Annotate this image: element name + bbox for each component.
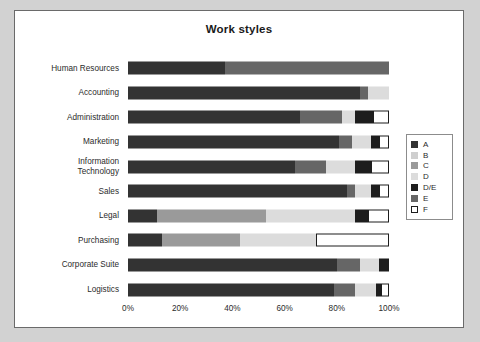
bar-segment xyxy=(128,209,157,222)
stacked-bar xyxy=(128,234,389,247)
x-axis-tick-label: 100% xyxy=(379,304,400,313)
bar-segment xyxy=(128,111,300,124)
bar-segment xyxy=(368,209,389,222)
legend-swatch-icon xyxy=(411,141,418,148)
legend-item[interactable]: F xyxy=(411,204,449,215)
legend-item[interactable]: E xyxy=(411,193,449,204)
bar-segment xyxy=(355,111,373,124)
bar-segment xyxy=(128,234,162,247)
bar-segment xyxy=(162,234,240,247)
legend-label: A xyxy=(423,140,428,149)
bar-segment xyxy=(371,136,379,149)
legend-label: B xyxy=(423,151,428,160)
stacked-bar xyxy=(128,209,389,222)
bar-segment xyxy=(379,136,389,149)
category-label: Accounting xyxy=(15,81,119,106)
bar-segment xyxy=(379,185,389,198)
bar-segment xyxy=(128,259,337,272)
bar-segment xyxy=(316,234,389,247)
stacked-bar xyxy=(128,283,389,296)
category-label: Human Resources xyxy=(15,56,119,81)
category-label: Corporate Suite xyxy=(15,253,119,278)
chart-row: Human Resources xyxy=(15,56,463,81)
legend-label: F xyxy=(423,205,428,214)
chart-row: Corporate Suite xyxy=(15,253,463,278)
category-label: Logistics xyxy=(15,277,119,302)
bar-segment xyxy=(157,209,267,222)
bar-segment xyxy=(352,136,370,149)
bar-segment xyxy=(225,62,389,75)
legend-swatch-icon xyxy=(411,162,418,169)
legend-label: E xyxy=(423,194,428,203)
bar-segment xyxy=(128,136,339,149)
bar-segment xyxy=(128,185,347,198)
stacked-bar xyxy=(128,185,389,198)
category-label: Administration xyxy=(15,105,119,130)
bar-segment xyxy=(295,160,326,173)
bar-segment xyxy=(368,86,389,99)
x-axis-tick-label: 0% xyxy=(122,304,134,313)
bar-segment xyxy=(128,160,295,173)
category-label: Purchasing xyxy=(15,228,119,253)
x-axis: 0%20%40%60%80%100% xyxy=(128,304,389,318)
bar-segment xyxy=(342,111,355,124)
x-axis-tick-label: 60% xyxy=(276,304,292,313)
legend-item[interactable]: B xyxy=(411,150,449,161)
stacked-bar xyxy=(128,259,389,272)
chart-row: Purchasing xyxy=(15,228,463,253)
legend-swatch-icon xyxy=(411,184,418,191)
x-axis-tick-label: 40% xyxy=(224,304,240,313)
chart-row: Information Technology xyxy=(15,154,463,179)
x-axis-tick-label: 20% xyxy=(172,304,188,313)
category-label: Marketing xyxy=(15,130,119,155)
bar-segment xyxy=(326,160,355,173)
bar-segment xyxy=(379,259,389,272)
bar-segment xyxy=(128,283,334,296)
legend-swatch-icon xyxy=(411,152,418,159)
category-label: Information Technology xyxy=(15,154,119,179)
legend-swatch-icon xyxy=(411,173,418,180)
bar-segment xyxy=(334,283,355,296)
stacked-bar xyxy=(128,136,389,149)
legend-item[interactable]: C xyxy=(411,161,449,172)
chart-row: Marketing xyxy=(15,130,463,155)
stacked-bar xyxy=(128,62,389,75)
bar-segment xyxy=(373,111,389,124)
bar-segment xyxy=(240,234,316,247)
stacked-bar xyxy=(128,86,389,99)
legend-item[interactable]: D xyxy=(411,171,449,182)
plot-area: Human ResourcesAccountingAdministrationM… xyxy=(15,11,463,327)
chart-row: Sales xyxy=(15,179,463,204)
legend-item[interactable]: A xyxy=(411,139,449,150)
stacked-bar xyxy=(128,111,389,124)
chart-row: Legal xyxy=(15,204,463,229)
bar-segment xyxy=(339,136,352,149)
legend-swatch-icon xyxy=(411,206,418,213)
bar-segment xyxy=(360,259,378,272)
legend-label: D/E xyxy=(423,183,436,192)
category-label: Legal xyxy=(15,204,119,229)
bar-segment xyxy=(128,86,360,99)
bar-segment xyxy=(266,209,355,222)
bar-segment xyxy=(371,160,389,173)
legend-swatch-icon xyxy=(411,195,418,202)
legend-item[interactable]: D/E xyxy=(411,182,449,193)
stacked-bar xyxy=(128,160,389,173)
chart-row: Accounting xyxy=(15,81,463,106)
chart-row: Logistics xyxy=(15,277,463,302)
bar-segment xyxy=(371,185,379,198)
legend-label: D xyxy=(423,172,429,181)
bar-segment xyxy=(355,185,371,198)
category-label: Sales xyxy=(15,179,119,204)
bar-segment xyxy=(355,209,368,222)
chart-panel: Work styles Human ResourcesAccountingAdm… xyxy=(14,10,464,328)
bar-segment xyxy=(347,185,355,198)
legend-label: C xyxy=(423,161,429,170)
x-axis-tick-label: 80% xyxy=(329,304,345,313)
chart-legend: ABCDD/EEF xyxy=(406,134,453,220)
bar-segment xyxy=(128,62,225,75)
chart-row: Administration xyxy=(15,105,463,130)
bar-segment xyxy=(300,111,342,124)
bar-segment xyxy=(360,86,368,99)
bar-segment xyxy=(337,259,360,272)
